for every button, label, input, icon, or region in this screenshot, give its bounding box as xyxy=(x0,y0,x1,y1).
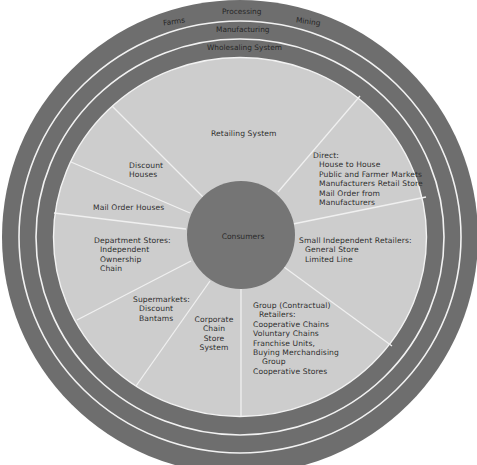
small-independent-item: General Store xyxy=(299,245,412,254)
corporate-line: Chain xyxy=(192,324,236,333)
department-heading: Department Stores: xyxy=(94,236,171,245)
discount-houses-line: Houses xyxy=(129,170,163,179)
ring-label-wholesaling: Wholesaling System xyxy=(207,43,282,52)
department-item: Independent xyxy=(94,245,171,254)
direct-item: House to House xyxy=(313,160,423,169)
corporate-line: Store xyxy=(192,334,236,343)
group-heading-2: Retailers: xyxy=(253,310,339,319)
direct-item: Manufacturers Retail Store xyxy=(313,179,423,188)
supermarkets-item: Discount xyxy=(133,304,190,313)
sector-corporate-chain: Corporate Chain Store System xyxy=(192,315,236,353)
group-item: Group xyxy=(253,357,339,366)
sector-mail-order-houses: Mail Order Houses xyxy=(93,203,164,212)
small-independent-item: Limited Line xyxy=(299,255,412,264)
sector-department-stores: Department Stores: Independent Ownership… xyxy=(94,236,171,274)
department-item: Chain xyxy=(94,264,171,273)
direct-heading: Direct: xyxy=(313,151,423,160)
sector-small-independent: Small Independent Retailers: General Sto… xyxy=(299,236,412,264)
discount-houses-line: Discount xyxy=(129,161,163,170)
sector-direct: Direct: House to House Public and Farmer… xyxy=(313,151,423,207)
corporate-line: Corporate xyxy=(192,315,236,324)
group-heading: Group (Contractual) xyxy=(253,301,339,310)
ring-label-manufacturing: Manufacturing xyxy=(216,25,270,34)
sector-supermarkets: Supermarkets: Discount Bantams xyxy=(133,295,190,323)
sector-group-contractual: Group (Contractual) Retailers: Cooperati… xyxy=(253,301,339,376)
supermarkets-item: Bantams xyxy=(133,314,190,323)
group-item: Buying Merchandising xyxy=(253,348,339,357)
group-item: Cooperative Chains xyxy=(253,320,339,329)
ring-label-processing: Processing xyxy=(222,7,261,16)
supermarkets-heading: Supermarkets: xyxy=(133,295,190,304)
department-item: Ownership xyxy=(94,255,171,264)
direct-item: Manufacturers xyxy=(313,198,423,207)
group-item: Franchise Units, xyxy=(253,339,339,348)
group-item: Voluntary Chains xyxy=(253,329,339,338)
retailing-system-title: Retailing System xyxy=(211,129,277,138)
group-item: Cooperative Stores xyxy=(253,367,339,376)
consumers-label: Consumers xyxy=(222,232,265,241)
direct-item: Mail Order from xyxy=(313,189,423,198)
corporate-line: System xyxy=(192,343,236,352)
small-independent-heading: Small Independent Retailers: xyxy=(299,236,412,245)
sector-discount-houses: Discount Houses xyxy=(129,161,163,180)
direct-item: Public and Farmer Markets xyxy=(313,170,423,179)
